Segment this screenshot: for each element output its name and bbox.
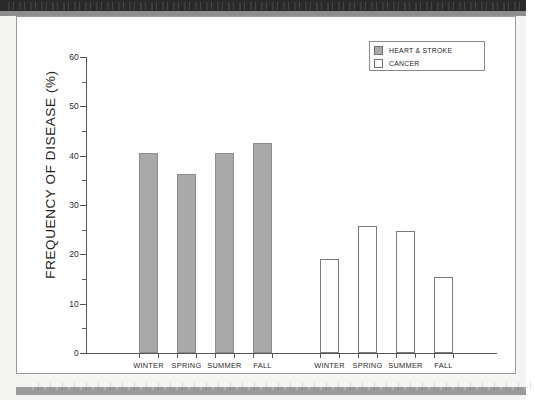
x-axis-tick xyxy=(215,353,216,358)
y-axis-line xyxy=(86,57,87,354)
chart-plot-area: FREQUENCY OF DISEASE (%) 6050403020100 W… xyxy=(17,17,515,373)
x-axis-tick xyxy=(415,353,416,358)
x-axis-tick-label: FALL xyxy=(244,361,282,370)
x-axis-tick-label: SPRING xyxy=(349,361,387,370)
y-axis-minor-tick xyxy=(82,82,86,83)
bar xyxy=(434,277,453,353)
bar xyxy=(320,259,339,353)
y-axis-major-tick xyxy=(80,57,86,58)
x-axis-tick xyxy=(358,353,359,358)
x-axis-tick-label: WINTER xyxy=(130,361,168,370)
x-axis-tick xyxy=(272,353,273,358)
bar xyxy=(396,231,415,353)
y-axis-major-tick xyxy=(80,304,86,305)
bar xyxy=(215,153,234,353)
y-axis-minor-tick xyxy=(82,131,86,132)
y-axis-minor-tick xyxy=(82,328,86,329)
bar xyxy=(253,143,272,353)
y-axis-major-tick xyxy=(80,106,86,107)
x-axis-tick xyxy=(234,353,235,358)
legend-item-heart-stroke: HEART & STROKE xyxy=(374,45,480,56)
x-axis-tick xyxy=(253,353,254,358)
legend-swatch-icon-cancer xyxy=(374,59,383,68)
bottom-scan-band xyxy=(16,387,526,395)
y-axis-tick-label: 20 xyxy=(53,249,79,259)
y-axis-tick-label: 40 xyxy=(53,151,79,161)
x-axis-tick xyxy=(158,353,159,358)
legend-item-cancer: CANCER xyxy=(374,58,480,69)
x-axis-tick-label: SUMMER xyxy=(206,361,244,370)
y-axis-tick-label: 0 xyxy=(53,348,79,358)
x-axis-tick xyxy=(377,353,378,358)
x-axis-tick xyxy=(177,353,178,358)
legend-label-heart-stroke: HEART & STROKE xyxy=(389,47,452,54)
bar xyxy=(358,226,377,353)
x-axis-line xyxy=(86,353,497,354)
y-axis-major-tick xyxy=(80,205,86,206)
legend-label-cancer: CANCER xyxy=(389,60,420,67)
x-axis-tick xyxy=(434,353,435,358)
y-axis-tick-label: 10 xyxy=(53,299,79,309)
bar xyxy=(177,174,196,353)
x-axis-tick xyxy=(139,353,140,358)
x-axis-tick-label: SPRING xyxy=(168,361,206,370)
y-axis-minor-tick xyxy=(82,230,86,231)
x-axis-tick xyxy=(339,353,340,358)
top-scan-band-noise xyxy=(8,2,520,10)
chart-legend: HEART & STROKE CANCER xyxy=(369,41,485,71)
x-axis-tick xyxy=(453,353,454,358)
x-axis-tick-label: FALL xyxy=(425,361,463,370)
x-axis-tick-label: SUMMER xyxy=(387,361,425,370)
x-axis-tick xyxy=(196,353,197,358)
y-axis-major-tick xyxy=(80,254,86,255)
y-axis-tick-label: 30 xyxy=(53,200,79,210)
y-axis-major-tick xyxy=(80,353,86,354)
x-axis-tick xyxy=(396,353,397,358)
bottom-scan-band-noise xyxy=(32,382,535,390)
bar xyxy=(139,153,158,353)
top-scan-band xyxy=(0,0,526,11)
y-axis-minor-tick xyxy=(82,279,86,280)
y-axis-tick-label: 60 xyxy=(53,52,79,62)
x-axis-tick-label: WINTER xyxy=(311,361,349,370)
y-axis-tick-label: 50 xyxy=(53,101,79,111)
figure-card: FREQUENCY OF DISEASE (%) 6050403020100 W… xyxy=(16,16,516,374)
legend-swatch-icon-heart-stroke xyxy=(374,46,383,55)
x-axis-tick xyxy=(320,353,321,358)
y-axis-minor-tick xyxy=(82,180,86,181)
y-axis-major-tick xyxy=(80,156,86,157)
